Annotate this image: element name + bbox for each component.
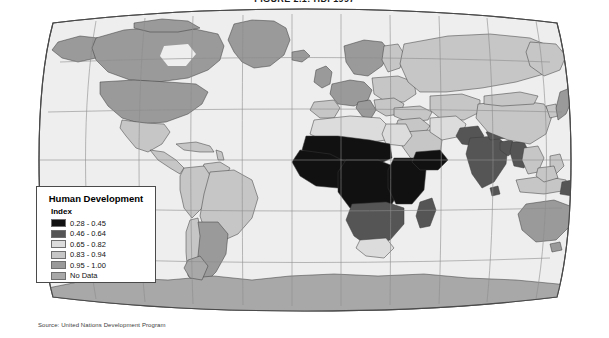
legend-swatch-icon [51,261,66,269]
legend-entry-label: 0.65 - 0.82 [70,240,106,249]
legend-swatch-icon [51,251,66,259]
legend-subtitle: Index [51,206,155,217]
legend-swatch-icon [51,219,66,227]
legend-row: 0.28 - 0.45 [51,218,155,229]
region-sri-lanka [490,186,500,196]
legend-row: 0.83 - 0.94 [51,250,155,261]
legend-entry-label: 0.28 - 0.45 [70,219,106,228]
source-note: Source: United Nations Development Progr… [38,322,166,328]
legend-entries: 0.28 - 0.45 0.46 - 0.64 0.65 - 0.82 0.83… [37,218,155,281]
legend-swatch-icon [51,240,66,248]
legend-row: No Data [51,271,155,282]
map-legend: Human Development Index 0.28 - 0.45 0.46… [36,186,156,283]
legend-entry-label: 0.83 - 0.94 [70,250,106,259]
legend-swatch-icon [51,272,66,280]
legend-title: Human Development [37,193,155,205]
legend-entry-label: 0.46 - 0.64 [70,229,106,238]
legend-swatch-icon [51,230,66,238]
legend-row: 0.65 - 0.82 [51,239,155,250]
legend-row: 0.46 - 0.64 [51,229,155,240]
legend-entry-label: 0.95 - 1.00 [70,261,106,270]
legend-entry-label: No Data [70,271,98,280]
legend-row: 0.95 - 1.00 [51,260,155,271]
page-title: FIGURE 2.1: HDI 1997 [0,0,609,5]
region-tasmania [550,242,562,252]
